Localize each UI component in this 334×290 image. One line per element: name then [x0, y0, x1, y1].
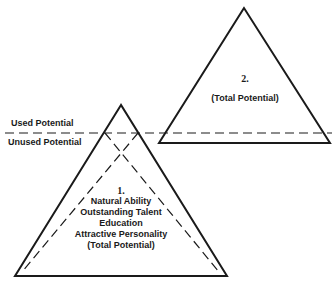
triangle-2-caption: (Total Potential): [211, 93, 278, 104]
triangle-1-line: (Total Potential): [75, 240, 168, 251]
triangle-1-text: Natural Ability Outstanding Talent Educa…: [75, 196, 168, 251]
triangle-2-number: 2.: [241, 73, 249, 84]
used-potential-label: Used Potential: [11, 118, 74, 129]
triangle-1-line: Education: [75, 218, 168, 229]
triangle-1-line: Attractive Personality: [75, 229, 168, 240]
triangle-1-number: 1.: [117, 185, 125, 196]
triangle-1-line: Outstanding Talent: [75, 207, 168, 218]
triangle-1-line: Natural Ability: [75, 196, 168, 207]
unused-potential-label: Unused Potential: [8, 137, 82, 148]
